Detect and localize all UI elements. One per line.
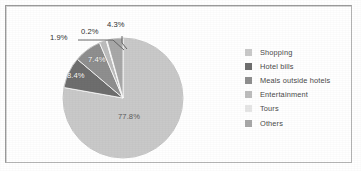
legend-item[interactable]: Others: [245, 116, 357, 130]
legend-swatch-icon: [245, 77, 252, 84]
legend-item-label: Hotel bills: [260, 62, 294, 71]
legend-item-label: Tours: [260, 104, 279, 113]
legend-item[interactable]: Tours: [245, 102, 357, 116]
legend-swatch-icon: [245, 49, 252, 56]
pie-chart-figure: 77.8% 8.4% 7.4% 1.9% 0.2% 4.3% ShoppingH…: [0, 0, 361, 171]
legend-item-label: Meals outside hotels: [260, 76, 330, 85]
legend-item[interactable]: Shopping: [245, 45, 357, 59]
legend-item[interactable]: Entertainment: [245, 88, 357, 102]
legend-item[interactable]: Hotel bills: [245, 59, 357, 73]
legend-item-label: Shopping: [260, 48, 292, 57]
slice-label-tours: 0.2%: [81, 27, 99, 36]
legend-swatch-icon: [245, 91, 252, 98]
legend-item[interactable]: Meals outside hotels: [245, 73, 357, 87]
slice-label-meals-outside-hotels: 7.4%: [88, 55, 106, 64]
legend-item-label: Entertainment: [260, 90, 308, 99]
legend-item-label: Others: [260, 119, 283, 128]
legend-swatch-icon: [245, 120, 252, 127]
pie-slices: [63, 38, 183, 158]
plot-area: 77.8% 8.4% 7.4% 1.9% 0.2% 4.3% ShoppingH…: [0, 0, 361, 171]
slice-label-others: 4.3%: [107, 20, 125, 29]
slice-label-shopping: 77.8%: [118, 112, 140, 121]
slice-label-entertainment: 1.9%: [50, 33, 68, 42]
legend-swatch-icon: [245, 63, 252, 70]
legend-swatch-icon: [245, 105, 252, 112]
legend: ShoppingHotel billsMeals outside hotelsE…: [245, 45, 357, 130]
slice-label-hotel-bills: 8.4%: [67, 71, 85, 80]
